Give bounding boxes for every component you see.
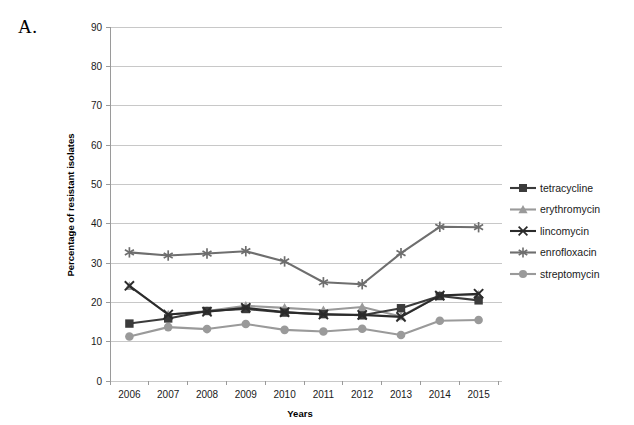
y-axis-tick-label: 30 <box>91 258 103 269</box>
data-series <box>125 222 484 341</box>
series-line-streptomycin <box>129 320 478 337</box>
y-axis-tick-label: 10 <box>91 336 103 347</box>
legend-label-enrofloxacin: enrofloxacin <box>540 246 597 258</box>
x-axis-tick-labels: 2006200720082009201020112012201320142015 <box>118 389 490 400</box>
y-axis-tick-label: 70 <box>91 100 103 111</box>
y-axis-tick-labels: 0102030405060708090 <box>91 22 103 387</box>
legend-item-tetracycline[interactable]: tetracycline <box>510 182 593 194</box>
data-point-square <box>397 304 405 312</box>
x-axis-tick-label: 2015 <box>467 389 490 400</box>
x-axis-tick-label: 2012 <box>351 389 374 400</box>
x-axis-tick-label: 2006 <box>118 389 141 400</box>
x-axis-tick-label: 2013 <box>390 389 413 400</box>
series-streptomycin <box>125 316 483 341</box>
data-point-square <box>519 184 527 192</box>
data-point-circle <box>203 325 212 334</box>
y-axis-tick-label: 0 <box>96 376 102 387</box>
y-axis-title: Percentage of resistant isolates <box>65 133 76 276</box>
data-point-square <box>125 319 133 327</box>
data-point-circle <box>164 323 173 332</box>
data-point-circle <box>358 324 367 333</box>
data-point-circle <box>436 317 445 326</box>
data-point-circle <box>474 316 483 325</box>
x-axis-tick-label: 2007 <box>157 389 180 400</box>
legend-item-erythromycin[interactable]: erythromycin <box>510 203 600 215</box>
legend-label-erythromycin: erythromycin <box>540 203 600 215</box>
x-axis-tick-label: 2009 <box>235 389 258 400</box>
data-point-circle <box>125 332 134 341</box>
data-point-circle <box>319 327 328 336</box>
y-axis-tick-label: 80 <box>91 61 103 72</box>
y-axis-tick-label: 20 <box>91 297 103 308</box>
data-point-circle <box>397 331 406 340</box>
x-axis-tick-label: 2010 <box>273 389 296 400</box>
x-axis-tick-label: 2008 <box>196 389 219 400</box>
x-axis-tick-label: 2011 <box>313 389 335 400</box>
y-axis-tick-label: 50 <box>91 179 103 190</box>
legend-label-streptomycin: streptomycin <box>540 268 600 280</box>
data-point-circle <box>242 320 251 329</box>
y-axis-tick-label: 60 <box>91 140 103 151</box>
legend-label-lincomycin: lincomycin <box>540 225 589 237</box>
series-enrofloxacin <box>125 222 483 290</box>
series-line-enrofloxacin <box>129 227 478 284</box>
legend-label-tetracycline: tetracycline <box>540 182 593 194</box>
line-chart: 0102030405060708090 20062007200820092010… <box>0 0 634 425</box>
y-axis-tick-label: 40 <box>91 218 103 229</box>
legend-item-lincomycin[interactable]: lincomycin <box>510 225 589 237</box>
x-axis-title: Years <box>287 408 312 419</box>
chart-legend: tetracyclineerythromycinlincomycinenrofl… <box>510 182 600 280</box>
y-axis-tick-label: 90 <box>91 22 103 33</box>
x-axis-tick-label: 2014 <box>429 389 452 400</box>
data-point-circle <box>280 326 289 335</box>
legend-item-streptomycin[interactable]: streptomycin <box>510 268 600 280</box>
legend-item-enrofloxacin[interactable]: enrofloxacin <box>510 246 597 258</box>
data-point-circle <box>519 270 527 278</box>
